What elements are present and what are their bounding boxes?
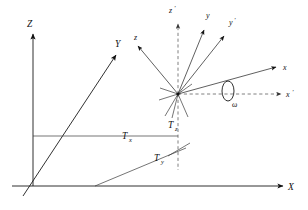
label-body-x-prime-group: x ': [285, 88, 294, 99]
label-layer: Z Y X z ' y y ' x x ' z T x: [27, 4, 295, 192]
label-body-x-prime-tick: ': [292, 88, 294, 96]
body-axis-y-prime: [178, 36, 224, 94]
label-tx-group: T x: [122, 131, 132, 143]
body-frame: [138, 24, 281, 118]
label-body-z-prime: z: [168, 6, 173, 15]
label-ty-base: T: [154, 153, 160, 163]
body-origin-fan-2: [172, 94, 178, 118]
body-axis-z: [138, 46, 178, 94]
label-tx-subscript: x: [128, 136, 132, 143]
label-body-z-prime-group: z ': [168, 4, 176, 15]
label-world-z: Z: [27, 19, 33, 29]
label-world-x: X: [287, 182, 295, 192]
omega-ellipse: [222, 81, 234, 101]
label-ty-subscript: y: [160, 158, 164, 165]
label-body-x: x: [282, 63, 287, 72]
coordinate-frame-diagram: Z Y X z ' y y ' x x ' z T x: [0, 0, 308, 210]
label-tz-base: T: [168, 120, 174, 130]
translation-construction: [33, 94, 190, 186]
figure-canvas: Z Y X z ' y y ' x x ' z T x: [0, 0, 308, 210]
label-body-z-prime-tick: ': [174, 4, 176, 12]
label-body-y-prime-tick: ': [234, 16, 236, 24]
translation-guide-ty-connector: [168, 143, 190, 156]
label-tz-group: T z: [168, 120, 178, 132]
world-axis-y: [23, 55, 116, 196]
world-frame: [12, 34, 283, 196]
label-body-y-prime: y: [228, 18, 233, 27]
label-tx-base: T: [122, 131, 128, 141]
label-tz-subscript: z: [174, 125, 178, 132]
label-omega: ω: [232, 100, 237, 109]
label-body-y: y: [205, 11, 210, 20]
label-ty-group: T y: [154, 153, 164, 165]
label-body-z: z: [133, 33, 138, 42]
label-world-y: Y: [115, 39, 122, 49]
body-axis-x: [178, 67, 276, 94]
label-body-y-prime-group: y ': [228, 16, 236, 27]
label-body-x-prime: x: [285, 90, 290, 99]
body-origin-fan-3: [178, 94, 188, 117]
body-origin-marker: [176, 92, 179, 95]
rotation-indicator: [222, 81, 234, 101]
